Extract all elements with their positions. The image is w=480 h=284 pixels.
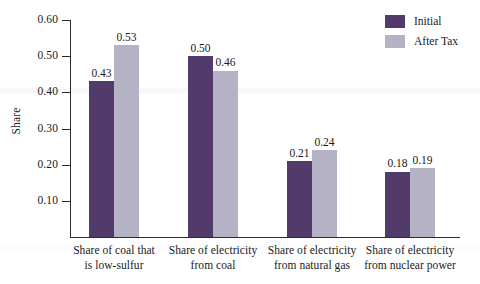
- category-label-line: is low-sulfur: [62, 258, 166, 273]
- y-axis-tick-label: 0.50: [24, 50, 58, 62]
- legend: Initial After Tax: [385, 13, 458, 53]
- x-axis-category-label: Share of coal thatis low-sulfur: [62, 243, 166, 272]
- y-axis-tick-label: 0.40: [24, 86, 58, 98]
- bar-initial: [188, 56, 213, 237]
- legend-swatch-icon: [385, 15, 405, 28]
- bar-after-tax: [114, 45, 139, 237]
- category-label-line: from natural gas: [260, 258, 364, 273]
- x-axis-category-label: Share of electricityfrom nuclear power: [358, 243, 462, 272]
- bar-initial: [287, 161, 312, 237]
- y-axis-title: Share: [10, 91, 22, 151]
- bar-value-label: 0.50: [184, 43, 217, 55]
- bar-value-label: 0.24: [308, 137, 341, 149]
- y-axis-tick: [62, 129, 70, 130]
- bar-initial: [385, 172, 410, 237]
- category-label-line: Share of coal that: [73, 244, 155, 256]
- legend-swatch-icon: [385, 35, 405, 48]
- bar-value-label: 0.46: [209, 57, 242, 69]
- x-axis-line: [70, 237, 460, 238]
- y-axis-tick: [62, 201, 70, 202]
- category-label-line: Share of electricity: [366, 244, 455, 256]
- category-label-line: from coal: [161, 258, 265, 273]
- bar-group: 0.500.46: [188, 20, 238, 237]
- y-axis-tick: [62, 20, 70, 21]
- x-axis-category-label: Share of electricityfrom natural gas: [260, 243, 364, 272]
- bar-value-label: 0.53: [110, 32, 143, 44]
- y-axis-tick: [62, 56, 70, 57]
- category-label-line: from nuclear power: [358, 258, 462, 273]
- y-axis-tick-label: 0.10: [24, 195, 58, 207]
- bar-value-label: 0.19: [406, 155, 439, 167]
- y-axis-tick-label: 0.20: [24, 159, 58, 171]
- bar-group: 0.210.24: [287, 20, 337, 237]
- bar-chart: Share 0.100.200.300.400.500.60 0.430.530…: [0, 0, 480, 284]
- y-axis-tick-label: 0.30: [24, 123, 58, 135]
- bar-after-tax: [312, 150, 337, 237]
- legend-item-label: Initial: [414, 16, 441, 28]
- bar-initial: [89, 81, 114, 237]
- legend-item-initial: Initial: [385, 13, 458, 30]
- category-label-line: Share of electricity: [169, 244, 258, 256]
- bar-after-tax: [410, 168, 435, 237]
- bar-group: 0.430.53: [89, 20, 139, 237]
- x-axis-category-label: Share of electricityfrom coal: [161, 243, 265, 272]
- category-label-line: Share of electricity: [268, 244, 357, 256]
- y-axis-tick: [62, 92, 70, 93]
- legend-item-after-tax: After Tax: [385, 33, 458, 50]
- bar-after-tax: [213, 71, 238, 237]
- legend-item-label: After Tax: [414, 36, 458, 48]
- y-axis-tick-label: 0.60: [24, 14, 58, 26]
- y-axis-tick: [62, 165, 70, 166]
